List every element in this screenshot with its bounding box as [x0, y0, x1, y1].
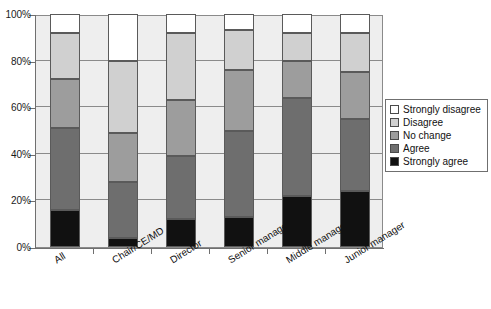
- bar-segment[interactable]: [224, 70, 254, 131]
- x-axis-tick: [93, 249, 94, 254]
- legend-item[interactable]: Disagree: [390, 116, 483, 128]
- bar-segment[interactable]: [50, 210, 80, 247]
- legend-item-label: Disagree: [403, 117, 443, 128]
- y-axis-tick-label: 0%: [3, 243, 31, 253]
- bar-segment[interactable]: [166, 14, 196, 33]
- legend-item[interactable]: Agree: [390, 142, 483, 154]
- x-axis-tick: [325, 249, 326, 254]
- bar-chair-ce-md[interactable]: [108, 14, 138, 247]
- bar-segment[interactable]: [282, 61, 312, 98]
- legend-swatch-icon: [390, 144, 399, 153]
- bar-segment[interactable]: [50, 79, 80, 128]
- legend-item-label: Strongly disagree: [403, 104, 481, 115]
- bar-segment[interactable]: [340, 33, 370, 73]
- bar-segment[interactable]: [166, 33, 196, 101]
- legend-item[interactable]: Strongly disagree: [390, 103, 483, 115]
- bar-middle-manager[interactable]: [282, 14, 312, 247]
- bar-segment[interactable]: [108, 133, 138, 182]
- bar-senior-manager[interactable]: [224, 14, 254, 247]
- legend-item[interactable]: Strongly agree: [390, 155, 483, 167]
- legend-item-label: Agree: [403, 143, 430, 154]
- y-axis-tick-label: 40%: [3, 150, 31, 160]
- bar-segment[interactable]: [282, 98, 312, 196]
- chart-title-clipped: [0, 0, 491, 7]
- bar-segment[interactable]: [224, 14, 254, 30]
- gridline: [36, 60, 382, 61]
- bar-segment[interactable]: [108, 14, 138, 61]
- bar-segment[interactable]: [282, 14, 312, 33]
- bar-segment[interactable]: [166, 100, 196, 156]
- stacked-bar-chart: 0%20%40%60%80%100% AllChair/CE/MDDirecto…: [0, 0, 491, 309]
- plot-area: [35, 15, 383, 248]
- bar-junior-manager[interactable]: [340, 14, 370, 247]
- bar-segment[interactable]: [50, 33, 80, 80]
- x-axis-tick: [267, 249, 268, 254]
- y-axis-line: [35, 15, 36, 249]
- legend-item-label: Strongly agree: [403, 156, 468, 167]
- x-axis-label-all: All: [52, 250, 67, 265]
- y-axis-tick-label: 100%: [3, 10, 31, 20]
- bar-segment[interactable]: [224, 131, 254, 217]
- bar-segment[interactable]: [340, 72, 370, 119]
- bar-segment[interactable]: [50, 128, 80, 210]
- gridline: [36, 153, 382, 154]
- y-axis-tick-label: 20%: [3, 196, 31, 206]
- bar-segment[interactable]: [108, 61, 138, 133]
- y-axis-tick-label: 60%: [3, 103, 31, 113]
- x-axis-tick: [151, 249, 152, 254]
- legend-item[interactable]: No change: [390, 129, 483, 141]
- x-axis-tick: [209, 249, 210, 254]
- legend-swatch-icon: [390, 157, 399, 166]
- legend-item-label: No change: [403, 130, 451, 141]
- bar-all[interactable]: [50, 14, 80, 247]
- bar-segment[interactable]: [224, 30, 254, 70]
- bar-segment[interactable]: [166, 156, 196, 219]
- legend-swatch-icon: [390, 118, 399, 127]
- gridline: [36, 199, 382, 200]
- legend-swatch-icon: [390, 105, 399, 114]
- bar-segment[interactable]: [340, 119, 370, 191]
- bar-director[interactable]: [166, 14, 196, 247]
- bar-segment[interactable]: [50, 14, 80, 33]
- bar-segment[interactable]: [282, 33, 312, 61]
- y-axis-tick-label: 80%: [3, 57, 31, 67]
- chart-legend: Strongly disagreeDisagreeNo changeAgreeS…: [385, 99, 488, 172]
- bar-segment[interactable]: [108, 182, 138, 238]
- gridline: [36, 106, 382, 107]
- bar-segment[interactable]: [340, 14, 370, 33]
- legend-swatch-icon: [390, 131, 399, 140]
